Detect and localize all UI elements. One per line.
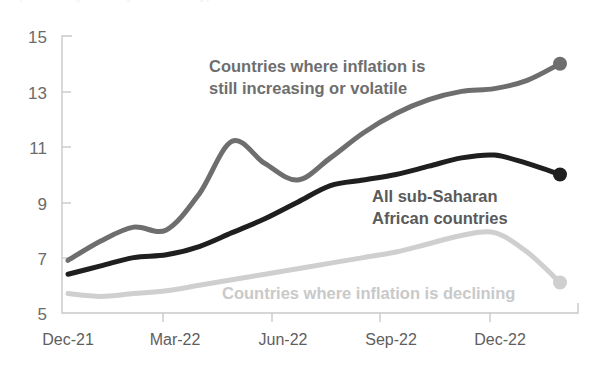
chart-plot-area: 15 13 11 9 7 5 Dec-21 Mar-22 Jun-22 S	[0, 0, 600, 375]
y-axis-labels: 15 13 11 9 7 5	[28, 28, 47, 324]
x-tick-label: Sep-22	[365, 331, 417, 348]
y-tick-label: 15	[28, 28, 47, 47]
annotation-line: All sub-Saharan	[372, 187, 498, 205]
y-tick-label: 7	[38, 250, 47, 269]
annotation-line: Countries where inflation is	[209, 57, 425, 75]
line-chart: (Percent, year-on-year, monthly) 15 13 1…	[0, 0, 600, 375]
annotation-declining: Countries where inflation is declining	[222, 284, 515, 302]
y-tick-label: 9	[38, 195, 47, 214]
annotation-all-ssa: All sub-Saharan African countries	[372, 187, 508, 227]
annotation-line: Countries where inflation is declining	[222, 284, 515, 302]
x-tick-label: Mar-22	[150, 331, 201, 348]
annotation-increasing: Countries where inflation is still incre…	[209, 57, 425, 97]
x-tick-label: Jun-22	[259, 331, 308, 348]
y-tick-label: 11	[29, 139, 47, 158]
y-tick-label: 13	[28, 84, 47, 103]
annotation-line: African countries	[372, 209, 508, 227]
x-tick-label: Dec-22	[474, 331, 526, 348]
series-end-marker	[553, 168, 567, 182]
x-axis-labels: Dec-21 Mar-22 Jun-22 Sep-22 Dec-22	[42, 331, 526, 348]
annotation-line: still increasing or volatile	[209, 79, 407, 97]
series-end-marker	[553, 57, 567, 71]
y-tick-label: 5	[38, 305, 47, 324]
x-tick-label: Dec-21	[42, 331, 94, 348]
series-end-marker	[553, 276, 567, 290]
